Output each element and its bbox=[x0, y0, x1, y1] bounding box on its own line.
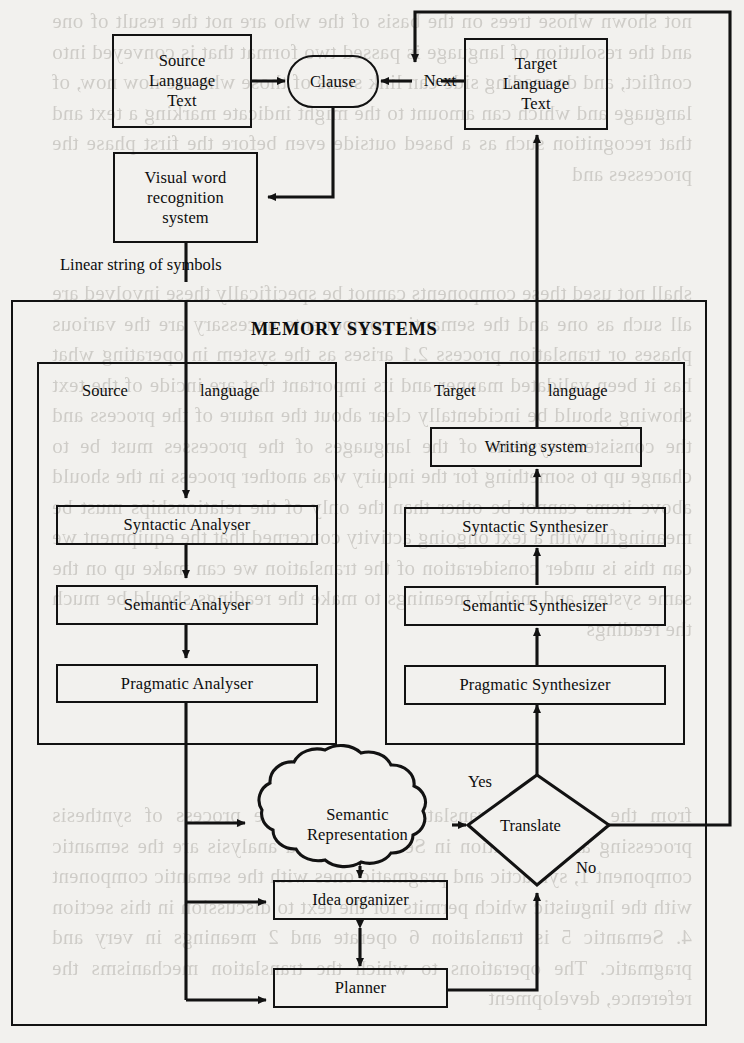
syntactic-synthesizer-box[interactable]: Syntactic Synthesizer bbox=[404, 507, 666, 547]
visual-word-recognition-system-box[interactable]: Visual word recognition system bbox=[113, 152, 258, 243]
target-language-text-label: Target Language Text bbox=[503, 54, 569, 114]
syntactic-synthesizer-label: Syntactic Synthesizer bbox=[462, 517, 608, 537]
idea-organizer-box[interactable]: Idea organizer bbox=[273, 880, 448, 920]
target-panel-heading-word2: language bbox=[548, 381, 608, 400]
semantic-representation-label: Semantic Representation bbox=[307, 805, 408, 845]
yes-label: Yes bbox=[468, 772, 492, 791]
semantic-representation-node[interactable]: Semantic Representation bbox=[265, 795, 450, 855]
visual-word-recognition-system-label: Visual word recognition system bbox=[145, 168, 227, 228]
semantic-analyser-box[interactable]: Semantic Analyser bbox=[56, 585, 318, 625]
syntactic-analyser-label: Syntactic Analyser bbox=[124, 515, 251, 535]
next-label-node: Next bbox=[414, 67, 466, 95]
source-panel-heading-word1: Source bbox=[82, 381, 128, 400]
pragmatic-analyser-box[interactable]: Pragmatic Analyser bbox=[56, 664, 318, 703]
semantic-analyser-label: Semantic Analyser bbox=[124, 595, 251, 615]
clause-node[interactable]: Clause bbox=[287, 55, 379, 108]
target-panel-heading-word1: Target bbox=[434, 381, 476, 400]
writing-system-box[interactable]: Writing system bbox=[430, 427, 642, 467]
source-panel-heading-word2: language bbox=[200, 381, 260, 400]
clause-label: Clause bbox=[310, 72, 356, 92]
memory-systems-title: MEMORY SYSTEMS bbox=[251, 320, 437, 339]
wire-clause-to-visual-word bbox=[268, 108, 333, 197]
syntactic-analyser-box[interactable]: Syntactic Analyser bbox=[56, 505, 318, 545]
target-language-text-box[interactable]: Target Language Text bbox=[464, 38, 608, 130]
pragmatic-synthesizer-label: Pragmatic Synthesizer bbox=[459, 675, 610, 695]
next-label: Next bbox=[424, 71, 457, 91]
linear-string-of-symbols-label: Linear string of symbols bbox=[60, 255, 222, 274]
source-language-text-box[interactable]: Source Language Text bbox=[112, 34, 252, 128]
translate-label: Translate bbox=[500, 816, 561, 835]
pragmatic-analyser-label: Pragmatic Analyser bbox=[121, 674, 253, 694]
semantic-synthesizer-label: Semantic Synthesizer bbox=[462, 596, 608, 616]
no-label: No bbox=[576, 858, 596, 877]
source-language-text-label: Source Language Text bbox=[149, 51, 215, 111]
idea-organizer-label: Idea organizer bbox=[312, 890, 409, 910]
semantic-synthesizer-box[interactable]: Semantic Synthesizer bbox=[404, 586, 666, 626]
planner-box[interactable]: Planner bbox=[273, 968, 448, 1008]
figure-page: not shown whose trees on the basis of th… bbox=[0, 0, 744, 1043]
planner-label: Planner bbox=[335, 978, 386, 998]
pragmatic-synthesizer-box[interactable]: Pragmatic Synthesizer bbox=[404, 665, 666, 705]
writing-system-label: Writing system bbox=[485, 437, 588, 457]
